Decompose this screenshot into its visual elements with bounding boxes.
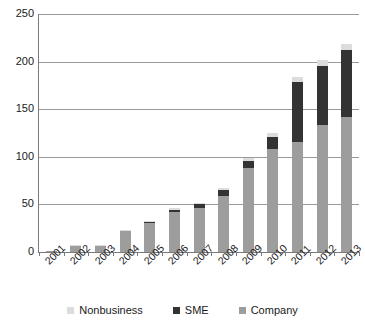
x-tick-mark (261, 252, 262, 256)
x-tick-mark (162, 252, 163, 256)
bar-group (46, 14, 57, 252)
bar-group (169, 14, 180, 252)
bar-segment-sme (144, 222, 155, 223)
y-tick-label: 50 (0, 198, 34, 209)
x-tick-mark (39, 252, 40, 256)
legend-item: SME (173, 305, 209, 316)
legend-label: Nonbusiness (79, 305, 143, 316)
bar-segment-sme (341, 50, 352, 117)
bar-segment-sme (243, 161, 254, 169)
bar-segment-nonbusiness (144, 221, 155, 222)
bar-segment-company (267, 149, 278, 252)
bar-segment-company (292, 142, 303, 252)
x-tick-mark (310, 252, 311, 256)
bar-segment-nonbusiness (317, 60, 328, 67)
bar-group (95, 14, 106, 252)
bar-group (70, 14, 81, 252)
bar-segment-company (243, 168, 254, 252)
bar-segment-nonbusiness (120, 230, 131, 231)
bar-group (120, 14, 131, 252)
legend-swatch-icon (239, 307, 246, 314)
bar-segment-nonbusiness (243, 158, 254, 161)
bar-group (317, 14, 328, 252)
bar-chart: 050100150200250 200120022003200420052006… (0, 0, 365, 329)
x-tick-mark (211, 252, 212, 256)
bar-segment-nonbusiness (292, 77, 303, 82)
bar-segment-sme (194, 204, 205, 208)
bar-segment-sme (317, 66, 328, 125)
y-tick-label: 150 (0, 103, 34, 114)
bar-group (218, 14, 229, 252)
bar-segment-company (341, 117, 352, 252)
x-tick-mark (285, 252, 286, 256)
bar-group (144, 14, 155, 252)
x-tick-mark (137, 252, 138, 256)
bar-segment-sme (267, 137, 278, 149)
bar-group (243, 14, 254, 252)
bar-segment-nonbusiness (169, 208, 180, 210)
bar-segment-nonbusiness (194, 203, 205, 205)
bar-group (341, 14, 352, 252)
bar-group (194, 14, 205, 252)
bar-group (267, 14, 278, 252)
y-tick-label: 0 (0, 246, 34, 257)
y-tick-label: 250 (0, 8, 34, 19)
x-tick-mark (236, 252, 237, 256)
y-tick-label: 200 (0, 56, 34, 67)
bar-segment-sme (169, 210, 180, 212)
bar-segment-nonbusiness (341, 44, 352, 50)
legend-label: Company (251, 305, 298, 316)
bars-layer (39, 14, 359, 252)
chart-legend: NonbusinessSMECompany (0, 305, 365, 316)
bar-segment-nonbusiness (218, 188, 229, 190)
bar-segment-sme (218, 190, 229, 196)
x-tick-mark (113, 252, 114, 256)
bar-segment-nonbusiness (267, 133, 278, 137)
x-tick-mark (359, 252, 360, 256)
x-tick-mark (334, 252, 335, 256)
legend-swatch-icon (67, 307, 74, 314)
x-tick-mark (88, 252, 89, 256)
y-tick-label: 100 (0, 151, 34, 162)
y-axis-tick-labels: 050100150200250 (0, 0, 34, 329)
legend-swatch-icon (173, 307, 180, 314)
x-tick-mark (187, 252, 188, 256)
bar-group (292, 14, 303, 252)
x-tick-mark (64, 252, 65, 256)
bar-segment-sme (292, 82, 303, 142)
legend-item: Company (239, 305, 298, 316)
bar-segment-company (218, 196, 229, 252)
bar-segment-company (317, 125, 328, 252)
legend-item: Nonbusiness (67, 305, 143, 316)
legend-label: SME (185, 305, 209, 316)
